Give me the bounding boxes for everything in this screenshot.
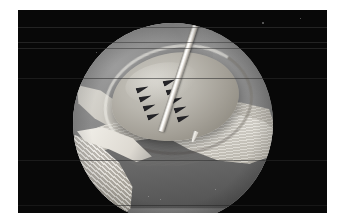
film-fleck-3 [148,196,149,197]
figure-canvas [0,0,345,224]
film-fleck-5 [215,189,216,190]
scope-vignette [73,23,273,213]
film-fleck-4 [160,199,161,200]
film-fleck-1 [300,18,301,19]
film-fleck-0 [262,22,264,24]
endoscope-viewport [73,23,273,213]
image-panel [18,10,327,213]
film-fleck-2 [96,52,97,53]
